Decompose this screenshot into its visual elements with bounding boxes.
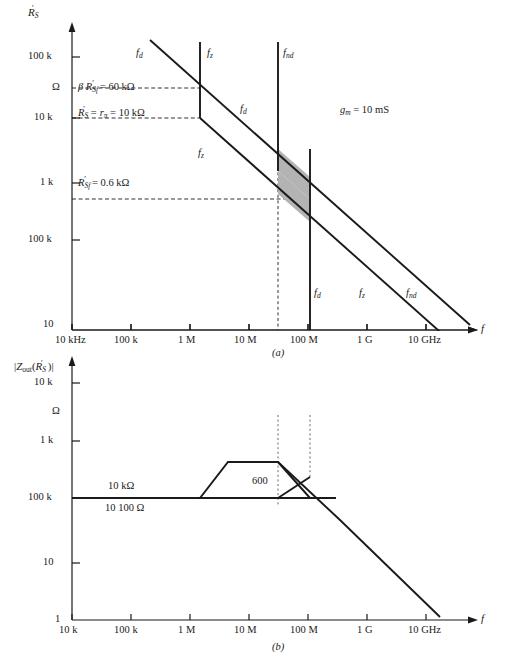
panel-b-ytick-2: 1 k [40,435,53,446]
curve-label-fz-top: fz [207,48,213,60]
panel-a-ytick-5: 10 [43,319,54,330]
panel-b-x-axis-label: f [481,612,484,624]
curve-label-fz-mid: fz [198,148,204,160]
curve-label-fnd-top: fnd [283,48,293,60]
annotation-gm: gm = 10 mS [340,105,389,117]
panel-a-y-axis-label: RS′ [28,6,40,20]
annotation-rs-rpi: RS′= rπ = 10 kΩ= 10 kΩ [78,108,145,120]
panel-b-xtick-5: 1 G [357,625,372,636]
figure-container: RS′ f 100 k Ω 10 k 1 k 100 k 10 10 kHz 1… [0,0,510,665]
panel-b-ytick-4: 10 [43,557,54,568]
panel-a-xtick-2: 1 M [178,335,195,346]
panel-a-y-axis-label-sub: S [35,11,39,20]
panel-a-xtick-4: 100 M [290,335,318,346]
panel-b-y-arrow [69,356,76,366]
panel-b-y-axis-label: |Zout(RS′)| [14,360,54,374]
curve-label-fd-bottom: fd [314,288,321,300]
panel-a-ytick-2: 10 k [34,112,52,123]
panel-b-ytick-0: 10 k [34,377,52,388]
panel-b-ytick-3: 100 k [28,492,52,503]
panel-a-xtick-0: 10 kHz [55,335,86,346]
panel-a-xtick-5: 1 G [357,335,372,346]
panel-b-xtick-0: 10 k [59,625,77,636]
curve-label-fd-mid: fd [240,104,247,116]
annotation-beta-rsf: β RSf′= 60 kΩ [78,82,135,94]
panel-a-xtick-1: 100 k [114,335,138,346]
curve-fz-diagonal [200,118,466,345]
annotation-600: 600 [252,476,268,487]
panel-b-x-arrow [468,617,478,624]
panel-b-ytick-1: Ω [52,406,60,417]
annotation-gm-value: = 10 mS [353,104,389,115]
annotation-rsf: RSf′= 0.6 kΩ [78,178,129,190]
panel-b-ytick-5: 1 [55,614,60,625]
annotation-10k-ohm: 10 kΩ [108,481,134,492]
panel-a-x-axis-label: f [481,322,484,334]
panel-a-x-ticks-2 [72,324,426,330]
panel-a-ytick-4: 100 k [28,234,52,245]
curve-label-fd-top: fd [136,48,143,60]
annotation-10-100-ohm: 10 100 Ω [105,503,144,514]
panel-a-xtick-3: 10 M [234,335,256,346]
panel-b-xtick-3: 10 M [234,625,256,636]
panel-b-y-ticks [72,383,80,563]
annotation-beta-rsf-value: = 60 kΩ [100,81,135,92]
panel-b-x-ticks [72,614,426,620]
panel-b-caption: (b) [272,641,284,652]
panel-a-ytick-0: 100 k [28,51,52,62]
trace-falling-tail [278,462,440,617]
panel-a-xtick-6: 10 GHz [408,335,441,346]
panel-b-xtick-6: 10 GHz [408,625,441,636]
annotation-rsf-value: = 0.6 kΩ [92,177,129,188]
panel-a-ytick-1: Ω [52,82,60,93]
panel-a-ytick-3: 1 k [40,177,53,188]
curve-label-fnd-bottom: fnd [406,288,416,300]
panel-b-xtick-4: 100 M [290,625,318,636]
panel-b-xtick-2: 1 M [178,625,195,636]
panel-b-xtick-1: 100 k [114,625,138,636]
curve-label-fz-bottom: fz [359,288,365,300]
panel-a-graphic [0,0,510,345]
panel-b-graphic [0,355,510,655]
panel-a-y-arrow [69,22,76,32]
